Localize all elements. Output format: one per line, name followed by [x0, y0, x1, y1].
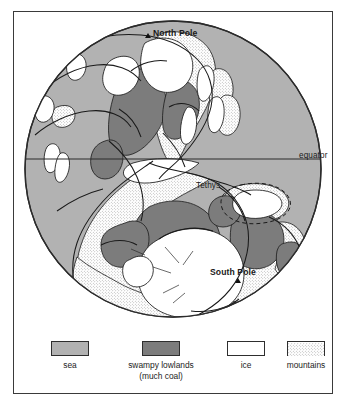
legend-stipple-fill [288, 343, 324, 356]
south-pole-marker-icon [235, 278, 241, 283]
legend-swatch-mountains-icon [287, 341, 325, 356]
figure-root: North Pole South Pole Tethys equator sea… [0, 0, 346, 407]
label-equator: equator [299, 151, 327, 160]
legend-label-swampy-lowlands: swampy lowlands [109, 360, 213, 371]
legend-label-ice: ice [216, 360, 276, 371]
legend-label-mountains: mountains [271, 360, 341, 371]
map-legend: sea swampy lowlands (much coal) ice moun… [13, 337, 333, 394]
label-tethys-ocean: Tethys [196, 181, 220, 190]
legend-swatch-ice-icon [227, 341, 265, 356]
legend-item-ice: ice [216, 341, 276, 371]
legend-item-mountains: mountains [271, 341, 341, 371]
legend-item-swampy-lowlands: swampy lowlands (much coal) [109, 341, 213, 381]
north-pole-marker-icon [145, 33, 151, 38]
legend-item-sea: sea [40, 341, 100, 371]
legend-label-swampy-lowlands-sub: (much coal) [109, 371, 213, 382]
label-north-pole: North Pole [153, 28, 197, 38]
legend-label-sea: sea [40, 360, 100, 371]
label-south-pole: South Pole [210, 267, 256, 277]
legend-swatch-sea-icon [51, 341, 89, 356]
legend-swatch-swampy-lowlands-icon [142, 341, 180, 356]
